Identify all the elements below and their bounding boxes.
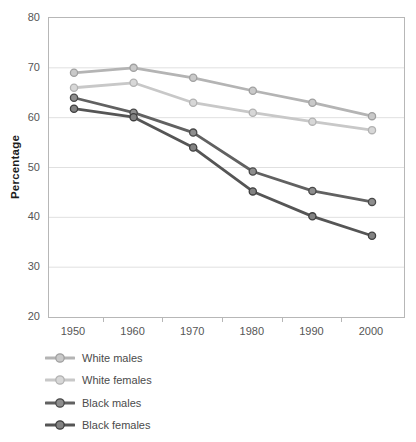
data-point-marker [130, 64, 137, 71]
data-point-marker [368, 113, 375, 120]
y-tick-label: 40 [2, 209, 40, 223]
data-point-marker [190, 144, 197, 151]
data-point-marker [309, 99, 316, 106]
data-point-marker [249, 168, 256, 175]
data-point-marker [249, 87, 256, 94]
y-tick-label: 50 [2, 160, 40, 174]
data-point-marker [70, 94, 77, 101]
data-point-marker [368, 127, 375, 134]
data-point-marker [70, 69, 77, 76]
legend-label: Black females [82, 419, 150, 431]
x-tick-label: 1990 [289, 324, 333, 338]
data-point-marker [70, 105, 77, 112]
y-tick-label: 30 [2, 259, 40, 273]
series-line [74, 109, 372, 236]
x-tick-label: 1950 [51, 324, 95, 338]
data-point-marker [70, 84, 77, 91]
legend-swatch-marker [56, 421, 64, 429]
x-minor-tick [282, 318, 283, 322]
data-point-marker [309, 213, 316, 220]
data-point-marker [130, 114, 137, 121]
data-point-marker [130, 79, 137, 86]
legend-swatch [45, 352, 75, 364]
y-tick-label: 60 [2, 110, 40, 124]
legend-item: White males [45, 350, 152, 365]
x-minor-tick [222, 318, 223, 322]
legend-swatch-marker [56, 376, 64, 384]
legend-swatch [45, 397, 75, 409]
x-minor-tick [162, 318, 163, 322]
x-minor-tick [103, 318, 104, 322]
line-chart-figure: Percentage 80706050403020 19501960197019… [0, 0, 416, 442]
y-tick-label: 20 [2, 309, 40, 323]
data-point-marker [190, 74, 197, 81]
x-tick-label: 1970 [170, 324, 214, 338]
y-tick-label: 70 [2, 60, 40, 74]
legend: White malesWhite femalesBlack malesBlack… [45, 350, 152, 440]
data-point-marker [249, 188, 256, 195]
plot-area [48, 17, 405, 318]
legend-label: White females [82, 374, 152, 386]
legend-swatch-marker [56, 398, 64, 406]
legend-item: White females [45, 373, 152, 388]
data-point-marker [190, 99, 197, 106]
legend-item: Black males [45, 395, 152, 410]
y-tick-label: 80 [2, 10, 40, 24]
data-point-marker [368, 232, 375, 239]
legend-label: White males [82, 352, 143, 364]
legend-swatch [45, 419, 75, 431]
data-point-marker [368, 198, 375, 205]
x-tick-label: 2000 [349, 324, 393, 338]
data-point-marker [249, 109, 256, 116]
legend-swatch [45, 374, 75, 386]
x-minor-tick [341, 318, 342, 322]
legend-swatch-marker [56, 353, 64, 361]
legend-item: Black females [45, 418, 152, 433]
x-tick-label: 1980 [230, 324, 274, 338]
legend-label: Black males [82, 397, 141, 409]
data-point-marker [309, 118, 316, 125]
x-tick-label: 1960 [111, 324, 155, 338]
series-line [74, 98, 372, 202]
data-point-marker [190, 129, 197, 136]
data-point-marker [309, 187, 316, 194]
chart-canvas [49, 18, 404, 317]
